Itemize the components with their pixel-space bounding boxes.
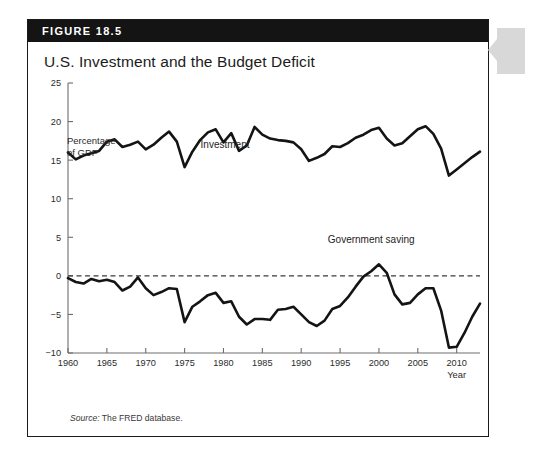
x-tick-label: 1975 xyxy=(174,358,194,368)
series-annotation: Government saving xyxy=(328,234,415,245)
x-tick-label: 1990 xyxy=(291,358,311,368)
chart-plot-area: Percentage of GDP −10−505101520251960196… xyxy=(28,71,490,401)
figure-title: U.S. Investment and the Budget Deficit xyxy=(28,42,488,71)
series-line-government-saving xyxy=(68,264,480,347)
x-tick-label: 1985 xyxy=(252,358,272,368)
x-tick-label: 1970 xyxy=(136,358,156,368)
page-edge-tab xyxy=(497,28,525,74)
source-prefix: Source: xyxy=(70,413,100,423)
x-tick-label: 2010 xyxy=(446,358,466,368)
x-tick-label: 1960 xyxy=(58,358,78,368)
source-note: Source: The FRED database. xyxy=(70,413,183,423)
y-tick-label: 5 xyxy=(56,233,61,243)
y-axis-title: Percentage of GDP xyxy=(67,135,116,158)
x-tick-label: 1980 xyxy=(213,358,233,368)
figure-number-label: FIGURE 18.5 xyxy=(42,25,122,37)
source-text: The FRED database. xyxy=(100,413,183,423)
x-tick-label: 1995 xyxy=(330,358,350,368)
x-tick-label: 2000 xyxy=(369,358,389,368)
x-axis-title: Year xyxy=(447,369,466,380)
x-tick-label: 1965 xyxy=(97,358,117,368)
figure-header-bar: FIGURE 18.5 xyxy=(28,20,488,42)
y-tick-label: 20 xyxy=(51,117,61,127)
y-tick-label: 15 xyxy=(51,156,61,166)
y-tick-label: 10 xyxy=(51,194,61,204)
x-tick-label: 2005 xyxy=(408,358,428,368)
y-tick-label: 0 xyxy=(56,271,61,281)
series-annotation: Investment xyxy=(201,139,250,150)
series-line-investment xyxy=(68,126,480,175)
line-chart: −10−505101520251960196519701975198019851… xyxy=(28,71,490,401)
y-tick-label: −10 xyxy=(45,348,61,358)
y-tick-label: −5 xyxy=(51,310,61,320)
figure-card: FIGURE 18.5 U.S. Investment and the Budg… xyxy=(27,19,489,437)
y-tick-label: 25 xyxy=(51,78,61,88)
